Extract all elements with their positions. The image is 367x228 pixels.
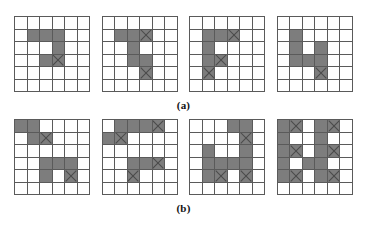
grid-cell-empty (190, 67, 202, 79)
grid-cell-empty (190, 120, 202, 132)
grid-cell-empty (153, 145, 165, 157)
grid-cell-empty (278, 80, 290, 92)
grid-cell-marked (290, 170, 302, 182)
grid-cell-empty (78, 133, 90, 145)
grid-cell-empty (290, 133, 302, 145)
grid-cell-filled (278, 120, 290, 132)
grid-cell-marked (153, 158, 165, 170)
grid-cell-empty (203, 183, 215, 195)
grid-cell-empty (115, 67, 127, 79)
grid-cell-empty (228, 133, 240, 145)
grid-cell-filled (140, 158, 152, 170)
grid-cell-empty (28, 170, 40, 182)
grid-cell-empty (28, 67, 40, 79)
grid-cell-empty (315, 80, 327, 92)
grid-cell-empty (328, 55, 340, 67)
grid-cell-marked (240, 170, 252, 182)
grid-cell-empty (115, 170, 127, 182)
grid-cell-empty (340, 170, 352, 182)
grid-cell-filled (228, 158, 240, 170)
grid-cell-empty (78, 80, 90, 92)
grid-a-4 (277, 16, 353, 92)
grid-cell-empty (103, 158, 115, 170)
grid-cell-empty (78, 183, 90, 195)
grid-cell-empty (15, 170, 27, 182)
grid-cell-empty (240, 67, 252, 79)
grid-cell-filled (103, 133, 115, 145)
grid-cell-empty (190, 145, 202, 157)
grid-cell-empty (215, 145, 227, 157)
grid-cell-empty (128, 133, 140, 145)
grid-cell-marked (140, 67, 152, 79)
grid-cell-empty (103, 183, 115, 195)
grid-cell-empty (340, 80, 352, 92)
grid-cell-filled (115, 120, 127, 132)
grid-cell-empty (115, 158, 127, 170)
grid-cell-empty (190, 17, 202, 29)
grid-cell-filled (290, 55, 302, 67)
grid-cell-marked (290, 145, 302, 157)
grid-cell-empty (278, 30, 290, 42)
grid-cell-filled (28, 120, 40, 132)
grid-cell-empty (215, 17, 227, 29)
grid-cell-empty (40, 120, 52, 132)
grid-cell-empty (140, 42, 152, 54)
grid-cell-empty (240, 42, 252, 54)
grid-b-1 (14, 119, 90, 195)
grid-cell-empty (153, 183, 165, 195)
caption-a: (a) (0, 99, 367, 111)
grid-b-2 (102, 119, 178, 195)
grid-cell-empty (65, 133, 77, 145)
grid-cell-empty (165, 55, 177, 67)
grid-cell-empty (340, 158, 352, 170)
grid-cell-empty (15, 55, 27, 67)
grid-cell-empty (78, 30, 90, 42)
grid-cell-empty (115, 17, 127, 29)
grid-cell-empty (28, 17, 40, 29)
grid-cell-filled (315, 145, 327, 157)
grid-cell-filled (140, 55, 152, 67)
grid-cell-empty (315, 183, 327, 195)
grid-cell-empty (328, 183, 340, 195)
grid-cell-empty (303, 42, 315, 54)
grid-cell-filled (128, 30, 140, 42)
grid-cell-filled (15, 120, 27, 132)
grid-cell-empty (153, 170, 165, 182)
grid-cell-empty (128, 183, 140, 195)
grid-cell-empty (190, 158, 202, 170)
grid-cell-empty (103, 30, 115, 42)
grid-cell-marked (65, 170, 77, 182)
grid-cell-empty (328, 80, 340, 92)
grid-cell-empty (140, 17, 152, 29)
grid-cell-empty (78, 145, 90, 157)
grid-a-1 (14, 16, 90, 92)
grid-cell-empty (103, 55, 115, 67)
grid-cell-marked (328, 145, 340, 157)
grid-cell-empty (228, 42, 240, 54)
grid-cell-empty (53, 133, 65, 145)
grid-cell-empty (240, 17, 252, 29)
grid-cell-empty (240, 30, 252, 42)
grid-cell-empty (65, 183, 77, 195)
grid-cell-empty (328, 17, 340, 29)
grid-strip-b (0, 119, 367, 195)
grid-cell-empty (28, 183, 40, 195)
grid-cell-empty (240, 183, 252, 195)
grid-cell-empty (15, 42, 27, 54)
grid-cell-empty (40, 80, 52, 92)
grid-cell-empty (53, 80, 65, 92)
grid-cell-empty (165, 145, 177, 157)
grid-cell-filled (315, 133, 327, 145)
grid-cell-filled (290, 42, 302, 54)
grid-cell-empty (215, 183, 227, 195)
grid-cell-empty (303, 120, 315, 132)
grid-cell-filled (315, 120, 327, 132)
grid-cell-empty (315, 30, 327, 42)
grid-cell-filled (228, 120, 240, 132)
grid-cell-empty (153, 80, 165, 92)
grid-b-4 (277, 119, 353, 195)
grid-cell-filled (28, 30, 40, 42)
grid-cell-empty (228, 170, 240, 182)
grid-cell-empty (165, 80, 177, 92)
grid-cell-filled (203, 158, 215, 170)
